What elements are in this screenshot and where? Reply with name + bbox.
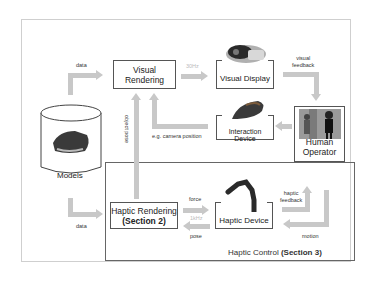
object-pose-label: object pose	[124, 115, 130, 143]
region-label-text: Haptic Control	[228, 248, 281, 257]
haptic-rendering-line1: Haptic Rendering	[111, 206, 177, 216]
arrow-operator-to-interaction	[282, 124, 292, 129]
visual-rendering-node: Visual Rendering	[113, 60, 176, 89]
data-top-label: data	[76, 62, 87, 68]
arrow-haptic-feedback-vertical	[305, 193, 310, 212]
arrow-visual-feedback-head	[311, 94, 321, 101]
arrow-data-top-head	[96, 70, 103, 80]
arrow-visual-feedback-vertical	[314, 72, 319, 94]
haptic-device-label: Haptic Device	[219, 216, 268, 225]
haptic-feedback-label: haptic feedback	[280, 190, 302, 204]
models-label: Models	[57, 171, 83, 180]
interaction-device-node: Interaction Device	[216, 115, 274, 140]
arrow-operator-to-interaction-head	[275, 121, 282, 131]
arrow-data-bottom-head	[96, 209, 103, 219]
arrow-visual-rate-head	[201, 71, 208, 81]
arrow-object-pose	[134, 100, 139, 199]
haptic-rate-label: 1kHz	[190, 215, 203, 221]
region-label-bold: (Section 3)	[281, 248, 322, 257]
haptic-feedback-line2: feedback	[280, 197, 302, 204]
arrow-object-pose-head	[131, 93, 141, 100]
visual-rendering-line2: Rendering	[125, 75, 164, 85]
arrow-motion-head	[283, 219, 290, 229]
arrow-data-top-horizontal	[68, 73, 96, 78]
pose-label: pose	[190, 233, 202, 239]
haptic-device-node: Haptic Device	[215, 202, 273, 229]
visual-feedback-line2: feedback	[292, 62, 314, 69]
arrow-data-bottom-horizontal	[68, 212, 96, 217]
arrow-visual-rate	[181, 74, 201, 79]
human-operator-photo-icon	[299, 109, 341, 139]
visual-display-node: Visual Display	[216, 60, 274, 89]
arrow-force	[183, 208, 202, 213]
arrow-pose-head	[183, 221, 190, 231]
visual-display-label: Visual Display	[220, 74, 270, 83]
motion-label: motion	[302, 233, 319, 239]
haptic-rendering-node: Haptic Rendering (Section 2)	[110, 202, 178, 229]
haptic-rendering-line2: (Section 2)	[122, 216, 165, 226]
visual-feedback-label: visual feedback	[292, 55, 314, 69]
human-operator-node: Human Operator	[294, 106, 345, 162]
arrow-camera-position-horizontal	[152, 124, 208, 129]
visual-rendering-line1: Visual	[133, 65, 156, 75]
visual-rate-label: 30Hz	[186, 63, 199, 69]
force-label: force	[189, 196, 201, 202]
arrow-force-head	[202, 205, 209, 215]
human-operator-line2: Operator	[303, 147, 337, 157]
visual-feedback-line1: visual	[292, 55, 314, 62]
arrow-motion-horizontal	[290, 222, 329, 227]
arrow-pose	[190, 224, 210, 229]
models-database-icon	[39, 103, 103, 179]
haptic-feedback-line1: haptic	[280, 190, 302, 197]
camera-position-label: e.g. camera position	[152, 133, 202, 139]
interaction-device-label: Interaction Device	[229, 128, 262, 142]
haptic-control-label: Haptic Control (Section 3)	[228, 248, 322, 257]
data-bottom-label: data	[76, 223, 87, 229]
arrow-haptic-feedback-head	[302, 186, 312, 193]
arrow-camera-position-head	[149, 93, 159, 100]
arrow-camera-position-vertical	[152, 100, 157, 129]
